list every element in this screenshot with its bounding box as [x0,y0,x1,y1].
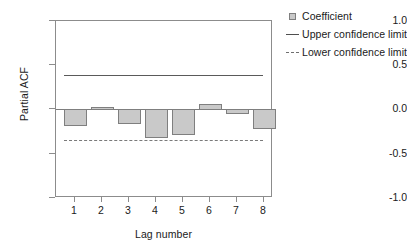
legend-swatch-icon [283,10,302,22]
partial-acf-chart: Partial ACF 1.0 0.5 0.0 -0.5 -1.0 1 2 3 … [0,0,407,249]
bar-lag-4 [145,109,168,138]
bar-lag-6 [199,104,222,110]
legend-dashed-line-icon [283,46,302,58]
x-tick-mark-2 [101,197,102,202]
legend-item-upper-confidence-limit: Upper confidence limit [283,26,407,42]
legend-label-coefficient: Coefficient [302,10,352,22]
chart-legend: Coefficient Upper confidence limit Lower… [283,8,407,62]
x-tick-label-4: 4 [145,205,165,216]
lower-confidence-limit-line [64,140,263,141]
legend-solid-line-icon [283,28,302,40]
bar-lag-3 [118,109,141,124]
bar-lag-5 [172,109,195,135]
bar-lag-1 [64,109,87,126]
x-axis-title: Lag number [55,228,272,240]
plot-area [55,20,272,197]
x-tick-label-5: 5 [172,205,192,216]
x-tick-label-2: 2 [91,205,111,216]
x-tick-mark-7 [236,197,237,202]
x-tick-mark-3 [128,197,129,202]
x-tick-mark-5 [182,197,183,202]
upper-confidence-limit-line [64,75,263,76]
chart-title-cropped [55,0,272,3]
bar-lag-7 [226,109,249,114]
bar-lag-2 [91,107,114,110]
legend-label-lower-confidence-limit: Lower confidence limit [302,46,407,58]
x-tick-mark-8 [263,197,264,202]
y-axis-title: Partial ACF [18,39,30,149]
y-tick-mark-5 [49,197,55,198]
y-tick-label-3: 0.0 [373,103,407,113]
x-tick-mark-1 [74,197,75,202]
y-tick-label-5: -1.0 [373,192,407,202]
legend-item-coefficient: Coefficient [283,8,407,24]
x-tick-label-3: 3 [118,205,138,216]
x-tick-label-1: 1 [64,205,84,216]
x-tick-label-7: 7 [226,205,246,216]
x-tick-label-6: 6 [199,205,219,216]
x-tick-label-8: 8 [253,205,273,216]
x-tick-mark-4 [155,197,156,202]
x-tick-mark-6 [209,197,210,202]
legend-label-upper-confidence-limit: Upper confidence limit [302,28,407,40]
bar-lag-8 [253,109,276,129]
y-tick-label-4: -0.5 [373,148,407,158]
legend-item-lower-confidence-limit: Lower confidence limit [283,44,407,60]
